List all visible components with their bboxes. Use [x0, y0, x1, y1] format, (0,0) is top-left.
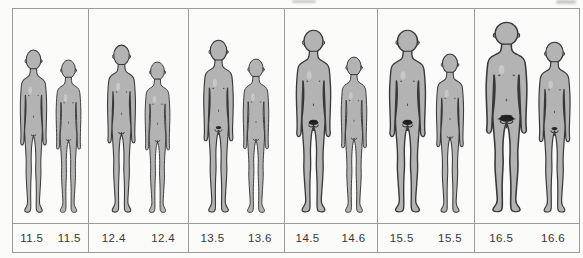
cropped-text-fragment-left	[292, 0, 316, 3]
age-label-left: 14.5	[285, 232, 331, 244]
boy-figure-right	[53, 59, 84, 215]
head	[211, 40, 227, 61]
age-label-left: 11.5	[13, 232, 51, 244]
boy-figure-right	[338, 56, 370, 215]
chest-highlight	[498, 65, 504, 74]
body-outline	[389, 51, 425, 212]
age-label-right: 13.6	[236, 232, 283, 244]
head	[249, 59, 263, 77]
body-outline	[539, 62, 570, 212]
age-panel: 13.5 13.6	[189, 9, 285, 252]
chest-highlight	[306, 71, 311, 80]
age-panel: 14.5 14.6	[285, 9, 378, 252]
body-outline	[296, 51, 330, 212]
boy-figure-left	[481, 21, 532, 215]
figure-pair	[13, 9, 88, 223]
figure-pair	[189, 9, 284, 223]
head	[62, 60, 76, 78]
age-panel: 12.4 12.4	[89, 9, 189, 252]
head	[304, 30, 323, 52]
body-outline	[107, 64, 135, 212]
body-outline	[20, 69, 46, 212]
age-label-left: 13.5	[189, 232, 236, 244]
body-outline	[436, 72, 463, 212]
age-label-row: 13.5 13.6	[189, 223, 284, 252]
age-label-row: 14.5 14.6	[285, 223, 377, 252]
figure-pair	[378, 9, 475, 223]
age-label-right: 14.6	[331, 232, 377, 244]
chest-highlight	[64, 94, 67, 101]
boy-figure-left	[385, 29, 430, 215]
figure-pair	[89, 9, 188, 223]
body-outline	[341, 75, 367, 212]
age-label-right: 12.4	[138, 232, 187, 244]
age-label-left: 12.4	[89, 232, 138, 244]
boy-figure-right	[240, 58, 272, 215]
age-label-row: 11.5 11.5	[13, 223, 88, 252]
head	[346, 57, 360, 76]
age-label-right: 15.5	[426, 232, 474, 244]
age-panel: 11.5 11.5	[13, 9, 89, 252]
head	[545, 42, 562, 62]
age-label-left: 15.5	[378, 232, 426, 244]
age-label-left: 16.5	[475, 232, 527, 244]
chest-highlight	[153, 96, 156, 103]
boy-figure-left	[17, 49, 50, 215]
age-label-row: 15.5 15.5	[378, 223, 475, 252]
body-outline	[56, 78, 81, 213]
boy-figure-left	[200, 39, 237, 215]
chest-highlight	[401, 71, 406, 80]
chest-highlight	[28, 87, 32, 95]
chest-highlight	[349, 92, 353, 99]
figure-pair	[475, 9, 579, 223]
boy-figure-right	[535, 41, 574, 215]
cropped-text-fragment-right	[556, 0, 576, 4]
chest-highlight	[116, 83, 120, 91]
body-outline	[204, 60, 234, 212]
figure-frame: 11.5 11.5 12.4 12.4 13.5 13.6 14.5 14.6 …	[12, 8, 580, 253]
age-panel: 16.5 16.6	[475, 9, 579, 252]
age-label-row: 16.5 16.6	[475, 223, 579, 252]
boy-figure-right	[142, 61, 173, 215]
age-label-row: 12.4 12.4	[89, 223, 188, 252]
head	[151, 62, 165, 80]
head	[114, 45, 130, 65]
age-label-right: 16.6	[527, 232, 579, 244]
boy-figure-right	[433, 53, 467, 215]
head	[495, 22, 518, 45]
body-outline	[243, 77, 269, 213]
boy-figure-left	[292, 29, 335, 215]
chest-highlight	[548, 80, 552, 88]
head	[442, 54, 457, 73]
chest-highlight	[445, 90, 449, 98]
head	[26, 50, 41, 70]
head	[397, 30, 417, 52]
body-outline	[145, 79, 170, 212]
chest-highlight	[213, 79, 217, 87]
age-panel: 15.5 15.5	[378, 9, 476, 252]
chest-highlight	[251, 94, 255, 101]
figure-pair	[285, 9, 377, 223]
tanner-growth-figure: 11.5 11.5 12.4 12.4 13.5 13.6 14.5 14.6 …	[0, 0, 583, 258]
age-label-right: 11.5	[51, 232, 89, 244]
boy-figure-left	[104, 44, 139, 215]
